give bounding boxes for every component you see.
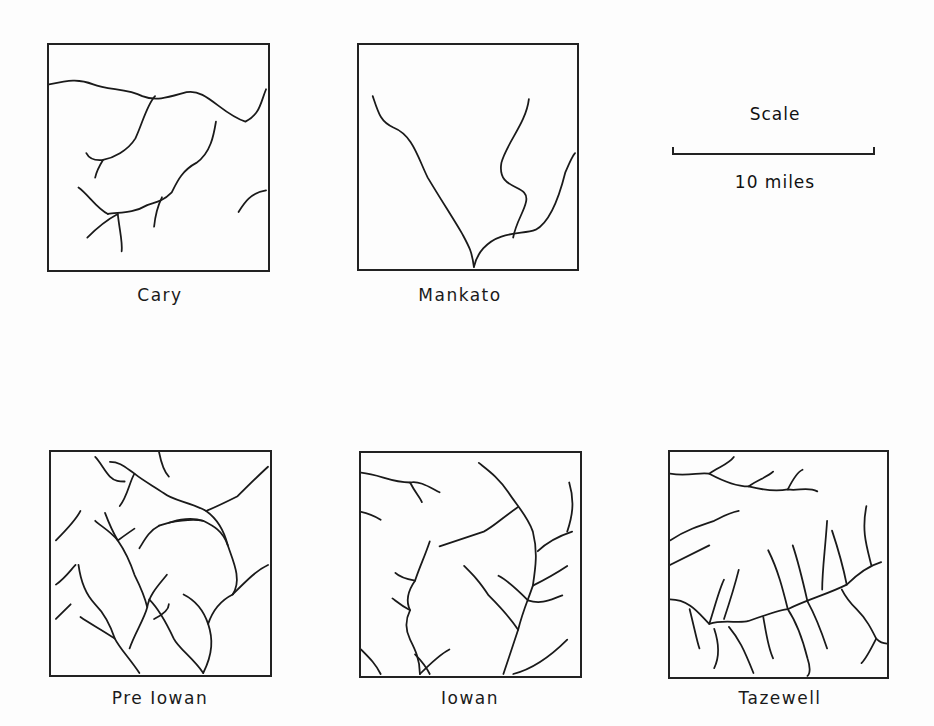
drainage-map-pre-iowan bbox=[49, 450, 272, 677]
drainage-map-mankato bbox=[357, 43, 579, 271]
panel-label-tazewell: Tazewell bbox=[720, 688, 840, 708]
drainage-map-tazewell bbox=[668, 450, 889, 679]
stream-network-iowan bbox=[361, 453, 580, 676]
panel-label-cary: Cary bbox=[110, 285, 210, 305]
drainage-map-iowan bbox=[359, 451, 582, 678]
stream-network-cary bbox=[49, 45, 268, 270]
panel-label-pre-iowan: Pre Iowan bbox=[90, 688, 230, 708]
scale-title: Scale bbox=[720, 104, 830, 124]
stream-network-mankato bbox=[359, 45, 577, 269]
scale-label: 10 miles bbox=[700, 172, 850, 192]
drainage-map-cary bbox=[47, 43, 270, 272]
stream-network-pre-iowan bbox=[51, 452, 270, 675]
panel-label-iowan: Iowan bbox=[420, 688, 520, 708]
scale-bar bbox=[672, 147, 875, 155]
panel-label-mankato: Mankato bbox=[400, 285, 520, 305]
stream-network-tazewell bbox=[670, 452, 887, 677]
